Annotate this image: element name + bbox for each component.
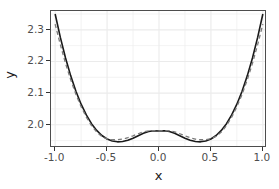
x-tick-label: -1.0 — [34, 151, 74, 163]
major-gridlines — [51, 11, 266, 147]
y-tick-mark — [46, 29, 50, 30]
x-tick-mark — [54, 147, 55, 151]
x-tick-label: 0.5 — [190, 151, 230, 163]
y-tick-label: 2.2 — [14, 54, 44, 66]
x-tick-mark — [158, 147, 159, 151]
x-tick-label: 0.0 — [138, 151, 178, 163]
x-tick: 0.5 — [190, 151, 230, 163]
x-tick: -0.5 — [86, 151, 126, 163]
plot-panel — [50, 10, 266, 147]
x-tick-label: -0.5 — [86, 151, 126, 163]
y-tick-label: 2.1 — [14, 86, 44, 98]
y-tick-label: 2.0 — [14, 118, 44, 130]
plot-canvas — [51, 11, 266, 147]
x-tick-mark — [262, 147, 263, 151]
y-tick-mark — [46, 92, 50, 93]
y-tick-mark — [46, 124, 50, 125]
x-axis-title: x — [51, 168, 266, 183]
x-tick: -1.0 — [34, 151, 74, 163]
x-tick-mark — [210, 147, 211, 151]
y-tick-label: 2.3 — [14, 23, 44, 35]
y-axis-title: y — [0, 66, 24, 84]
x-tick-mark — [106, 147, 107, 151]
x-tick: 1.0 — [242, 151, 279, 163]
x-tick: 0.0 — [138, 151, 178, 163]
x-tick-label: 1.0 — [242, 151, 279, 163]
chart-figure: y x 2.02.12.22.3 -1.0-0.50.00.51.0 — [0, 0, 279, 189]
y-tick-mark — [46, 60, 50, 61]
